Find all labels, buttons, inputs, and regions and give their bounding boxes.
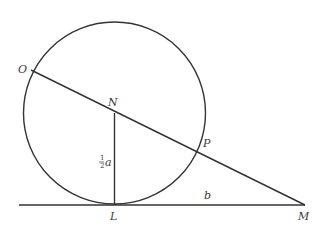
fraction-denominator: 2: [100, 162, 104, 170]
fraction-numerator: 1: [100, 154, 104, 162]
label-half-a: 1 2 a: [99, 154, 112, 170]
secant-line-om: [31, 70, 305, 205]
variable-a: a: [105, 156, 112, 169]
label-b: b: [204, 189, 211, 202]
label-n: N: [107, 96, 118, 109]
label-l: L: [109, 210, 117, 223]
label-m: M: [297, 210, 310, 223]
label-o: O: [18, 63, 27, 76]
geometry-diagram: O N P L M b 1 2 a: [0, 0, 323, 228]
label-p: P: [202, 137, 211, 150]
